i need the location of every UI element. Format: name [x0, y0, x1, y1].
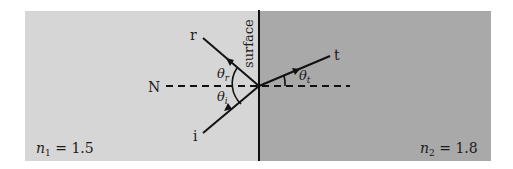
medium-2-index-label: n2 = 1.8	[420, 140, 478, 158]
surface-label: surface	[241, 19, 256, 68]
refraction-diagram: N r i t surface θr θi θt n1 = 1.5 n2 = 1…	[0, 0, 513, 169]
incident-ray-label: i	[193, 128, 198, 144]
medium-1-index-label: n1 = 1.5	[36, 140, 94, 158]
reflected-ray-label: r	[190, 27, 197, 43]
transmitted-ray-label: t	[334, 47, 340, 63]
medium-1-region	[25, 11, 259, 161]
medium-2-region	[259, 11, 491, 161]
normal-label: N	[148, 79, 160, 95]
